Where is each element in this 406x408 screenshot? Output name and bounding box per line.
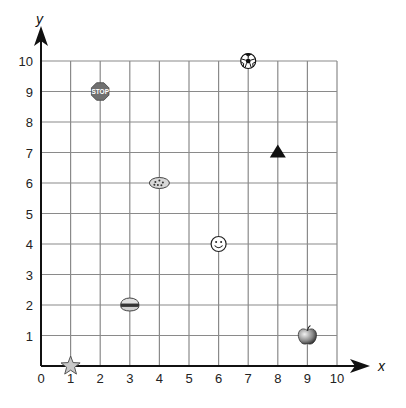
y-tick-label: 7 — [26, 146, 33, 161]
y-tick-label: 1 — [26, 329, 33, 344]
x-tick-label: 8 — [274, 371, 281, 386]
y-tick-label: 5 — [26, 207, 33, 222]
x-tick-label: 7 — [245, 371, 252, 386]
svg-text:STOP: STOP — [91, 88, 109, 95]
hamburger-icon: hamburger (3, 2) — [120, 298, 139, 311]
smiley-icon: smiley face (6, 4) — [211, 237, 226, 252]
x-tick-label: 2 — [97, 371, 104, 386]
y-tick-label: 9 — [26, 85, 33, 100]
y-tick-label: 10 — [19, 54, 33, 69]
x-tick-label: 4 — [156, 371, 163, 386]
x-tick-label: 1 — [67, 371, 74, 386]
y-tick-label: 4 — [26, 237, 33, 252]
plot-svg: x y 01234567891012345678910 star (1, 0)h… — [0, 0, 406, 408]
x-tick-label: 10 — [330, 371, 344, 386]
stop-sign-icon: stop sign (2, 9)STOP — [91, 83, 109, 101]
x-tick-label: 3 — [126, 371, 133, 386]
y-tick-label: 2 — [26, 298, 33, 313]
y-tick-label: 3 — [26, 268, 33, 283]
coordinate-grid: x y 01234567891012345678910 star (1, 0)h… — [0, 0, 406, 408]
soccer-ball-icon: soccer ball (7, 10) — [241, 54, 256, 69]
triangle-icon: triangle (8, 7) — [270, 145, 286, 158]
cookie-icon: cookie (4, 6) — [149, 178, 169, 189]
axes: x y — [34, 11, 386, 374]
x-tick-label: 6 — [215, 371, 222, 386]
y-tick-label: 6 — [26, 176, 33, 191]
x-tick-label: 9 — [304, 371, 311, 386]
y-axis-label: y — [35, 11, 44, 27]
y-tick-label: 8 — [26, 115, 33, 130]
x-tick-label: 0 — [37, 371, 44, 386]
grid-lines — [41, 61, 337, 366]
x-axis-label: x — [377, 358, 386, 374]
x-tick-label: 5 — [185, 371, 192, 386]
tick-labels: 01234567891012345678910 — [19, 54, 345, 386]
